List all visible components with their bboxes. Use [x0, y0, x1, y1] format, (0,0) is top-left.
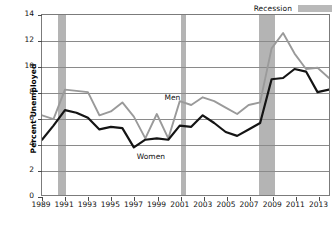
plot-area: MenWomen	[41, 14, 330, 196]
y-tick	[38, 93, 42, 94]
y-tick	[38, 119, 42, 120]
y-tick	[38, 171, 42, 172]
series-label-men: Men	[165, 93, 181, 102]
legend-label-recession: Recession	[254, 4, 292, 13]
y-tick-label: 6	[14, 113, 34, 122]
y-tick-label: 12	[14, 35, 34, 44]
x-tick-label: 2013	[298, 200, 336, 209]
y-tick-label: 8	[14, 87, 34, 96]
y-tick-label: 2	[14, 165, 34, 174]
series-annotations: MenWomen	[42, 15, 329, 195]
y-tick	[38, 41, 42, 42]
chart-legend: Recession	[254, 2, 332, 14]
y-tick	[38, 145, 42, 146]
y-tick-label: 10	[14, 61, 34, 70]
chart-figure: Recession Percent Unemployed MenWomen 02…	[0, 0, 336, 226]
y-tick-label: 4	[14, 139, 34, 148]
y-tick-label: 14	[14, 9, 34, 18]
y-tick-label: 0	[14, 191, 34, 200]
series-label-women: Women	[137, 152, 165, 161]
y-tick	[38, 15, 42, 16]
y-tick	[38, 67, 42, 68]
legend-swatch-recession	[298, 5, 332, 12]
